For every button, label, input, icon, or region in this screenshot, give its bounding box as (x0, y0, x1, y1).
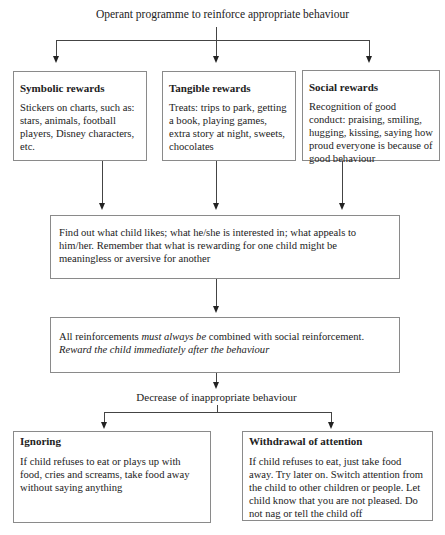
arrow-down-icon (53, 56, 59, 63)
find-out-box: Find out what child likes; what he/she i… (50, 215, 400, 279)
text-part: All reinforcements (59, 331, 141, 342)
connector (216, 161, 217, 203)
box-heading: Social rewards (309, 81, 433, 93)
ignoring-box: Ignoring If child refuses to eat or play… (13, 431, 211, 523)
connector (342, 161, 343, 203)
arrow-down-icon (101, 422, 107, 429)
arrow-down-icon (328, 422, 334, 429)
box-text: If child refuses to eat or plays up with… (20, 455, 204, 494)
connector (216, 279, 217, 307)
box-text: Recognition of good conduct: praising, s… (309, 100, 433, 165)
box-text: If child refuses to eat, just take food … (249, 455, 426, 520)
arrow-down-icon (213, 56, 219, 63)
diagram-title: Operant programme to reinforce appropria… (0, 8, 445, 20)
connector (56, 40, 57, 56)
reinforcement-box: All reinforcements must always be combin… (50, 317, 400, 373)
withdrawal-box: Withdrawal of attention If child refuses… (242, 431, 433, 521)
connector (369, 40, 370, 56)
arrow-down-icon (339, 203, 345, 210)
box-heading: Symbolic rewards (20, 82, 140, 94)
box-text: Find out what child likes; what he/she i… (59, 226, 391, 265)
box-text: All reinforcements must always be combin… (59, 330, 391, 356)
box-heading: Ignoring (20, 435, 204, 447)
connector (56, 40, 370, 41)
connector (331, 412, 332, 422)
box-text: Treats: trips to park, getting a book, p… (169, 101, 289, 153)
connector (216, 40, 217, 56)
connector (216, 27, 217, 40)
decrease-label: Decrease of inappropriate behaviour (0, 391, 433, 403)
box-heading: Withdrawal of attention (249, 435, 426, 447)
symbolic-rewards-box: Symbolic rewards Stickers on charts, suc… (13, 71, 147, 161)
connector (104, 412, 105, 422)
tangible-rewards-box: Tangible rewards Treats: trips to park, … (162, 71, 296, 161)
arrow-down-icon (213, 382, 219, 389)
text-part: combined with social reinforcement. (206, 331, 364, 342)
emphasis-text: Reward the child immediately after the b… (59, 344, 269, 355)
arrow-down-icon (366, 56, 372, 63)
arrow-down-icon (213, 203, 219, 210)
emphasis-text: must always be (141, 331, 206, 342)
connector (104, 412, 332, 413)
social-rewards-box: Social rewards Recognition of good condu… (302, 70, 440, 161)
box-heading: Tangible rewards (169, 82, 289, 94)
arrow-down-icon (99, 203, 105, 210)
arrow-down-icon (213, 306, 219, 313)
connector (217, 405, 218, 412)
connector (102, 161, 103, 203)
box-text: Stickers on charts, such as: stars, anim… (20, 101, 140, 153)
